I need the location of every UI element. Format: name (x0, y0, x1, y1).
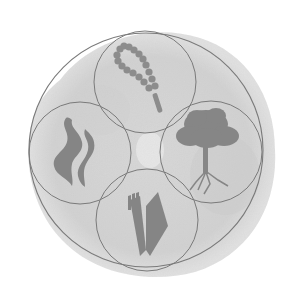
four-circle-emblem (0, 0, 292, 301)
